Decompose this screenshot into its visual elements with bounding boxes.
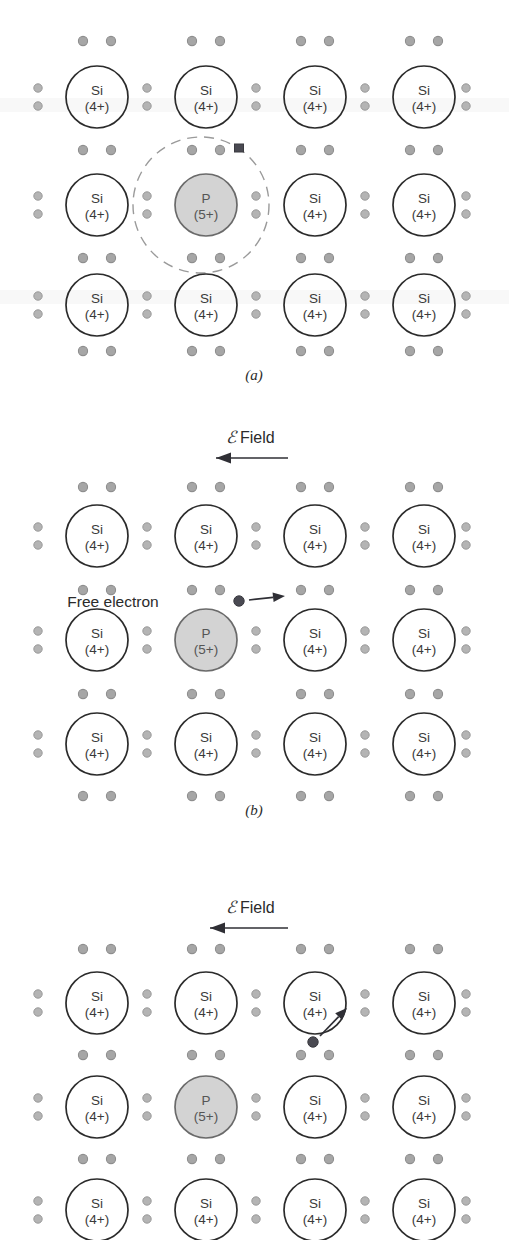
field-word-label: Field: [240, 899, 275, 916]
bond-electron-dot: [361, 990, 369, 998]
bond-electron-dot: [34, 1094, 42, 1102]
bond-electron-dot: [187, 253, 196, 262]
bond-electron-dot: [34, 102, 42, 110]
bond-electron-dot: [215, 253, 224, 262]
silicon-symbol-label: Si: [91, 291, 103, 306]
bond-electron-dot: [462, 1094, 470, 1102]
bond-electron-dot: [405, 145, 414, 154]
bond-electron-dot: [252, 749, 260, 757]
phosphorus-charge-label: (5+): [194, 642, 218, 657]
bond-electron-dot: [361, 645, 369, 653]
bond-electron-dot: [187, 944, 196, 953]
silicon-charge-label: (4+): [412, 1109, 436, 1124]
silicon-symbol-label: Si: [200, 730, 212, 745]
bond-electron-dot: [143, 731, 151, 739]
bond-electron-dot: [324, 145, 333, 154]
silicon-symbol-label: Si: [309, 191, 321, 206]
bond-electron-dot: [324, 253, 333, 262]
figure-canvas: Si(4+)Si(4+)Si(4+)Si(4+)Si(4+)P(5+)Si(4+…: [0, 0, 509, 1240]
bond-electron-dot: [462, 192, 470, 200]
bond-electron-dot: [34, 310, 42, 318]
silicon-atom: Si(4+): [175, 274, 237, 336]
silicon-symbol-label: Si: [418, 1196, 430, 1211]
bond-electron-dot: [252, 292, 260, 300]
silicon-symbol-label: Si: [309, 1093, 321, 1108]
silicon-atom: Si(4+): [66, 1179, 128, 1240]
lattice-panel-c: Si(4+)Si(4+)Si(4+)Si(4+)Si(4+)P(5+)Si(4+…: [0, 820, 509, 1240]
silicon-symbol-label: Si: [200, 1196, 212, 1211]
silicon-charge-label: (4+): [412, 746, 436, 761]
bond-electron-dot: [405, 585, 414, 594]
bond-electron-dot: [143, 627, 151, 635]
bond-electron-dot: [405, 482, 414, 491]
bond-electron-dot: [78, 346, 87, 355]
bond-electron-dot: [187, 689, 196, 698]
silicon-charge-label: (4+): [194, 1212, 218, 1227]
bond-electron-dot: [462, 749, 470, 757]
silicon-symbol-label: Si: [200, 989, 212, 1004]
bond-electron-dot: [34, 1008, 42, 1016]
silicon-atom: Si(4+): [284, 609, 346, 671]
bond-electron-dot: [433, 253, 442, 262]
bond-electron-dot: [462, 310, 470, 318]
silicon-charge-label: (4+): [412, 207, 436, 222]
silicon-atom: Si(4+): [393, 174, 455, 236]
silicon-symbol-label: Si: [91, 989, 103, 1004]
bond-electron-dot: [106, 145, 115, 154]
silicon-atom: Si(4+): [66, 66, 128, 128]
bond-electron-dot: [106, 253, 115, 262]
bond-electron-dot: [252, 523, 260, 531]
silicon-atom: Si(4+): [66, 174, 128, 236]
bond-electron-dot: [106, 1050, 115, 1059]
bond-electron-dot: [252, 102, 260, 110]
bond-electron-dot: [361, 541, 369, 549]
silicon-symbol-label: Si: [91, 522, 103, 537]
bond-electron-dot: [252, 1112, 260, 1120]
bond-electron-dot: [296, 1050, 305, 1059]
bond-electron-dot: [296, 145, 305, 154]
silicon-charge-label: (4+): [194, 538, 218, 553]
bound-donor-electron: [235, 144, 244, 152]
field-direction-arrowhead: [210, 923, 225, 934]
bond-electron-dot: [143, 1197, 151, 1205]
bond-electron-dot: [34, 192, 42, 200]
bond-electron-dot: [143, 1112, 151, 1120]
bond-electron-dot: [143, 1094, 151, 1102]
silicon-atom: Si(4+): [66, 505, 128, 567]
bond-electron-dot: [106, 1154, 115, 1163]
bond-electron-dot: [187, 145, 196, 154]
silicon-charge-label: (4+): [85, 207, 109, 222]
bond-electron-dot: [252, 627, 260, 635]
bond-electron-dot: [34, 210, 42, 218]
bond-electron-dot: [324, 36, 333, 45]
silicon-symbol-label: Si: [200, 291, 212, 306]
bond-electron-dot: [361, 749, 369, 757]
bond-electron-dot: [78, 145, 87, 154]
silicon-symbol-label: Si: [418, 291, 430, 306]
bond-electron-dot: [361, 310, 369, 318]
bond-electron-dot: [433, 482, 442, 491]
silicon-atom: Si(4+): [284, 972, 346, 1034]
bond-electron-dot: [462, 84, 470, 92]
bond-electron-dot: [433, 346, 442, 355]
bond-electron-dot: [433, 36, 442, 45]
silicon-atom: Si(4+): [66, 274, 128, 336]
silicon-symbol-label: Si: [91, 730, 103, 745]
bond-electron-dot: [296, 346, 305, 355]
bond-electron-dot: [78, 36, 87, 45]
bond-electron-dot: [405, 689, 414, 698]
bond-electron-dot: [187, 482, 196, 491]
bond-electron-dot: [405, 1154, 414, 1163]
bond-electron-dot: [252, 192, 260, 200]
bond-electron-dot: [324, 689, 333, 698]
field-direction-arrowhead: [216, 453, 231, 464]
bond-electron-dot: [215, 1154, 224, 1163]
silicon-charge-label: (4+): [85, 1005, 109, 1020]
field-symbol-label: ℰ: [226, 428, 238, 447]
bond-electron-dot: [34, 1112, 42, 1120]
bond-electron-dot: [215, 585, 224, 594]
silicon-atom: Si(4+): [175, 972, 237, 1034]
bond-electron-dot: [143, 310, 151, 318]
silicon-atom: Si(4+): [393, 713, 455, 775]
silicon-symbol-label: Si: [418, 522, 430, 537]
